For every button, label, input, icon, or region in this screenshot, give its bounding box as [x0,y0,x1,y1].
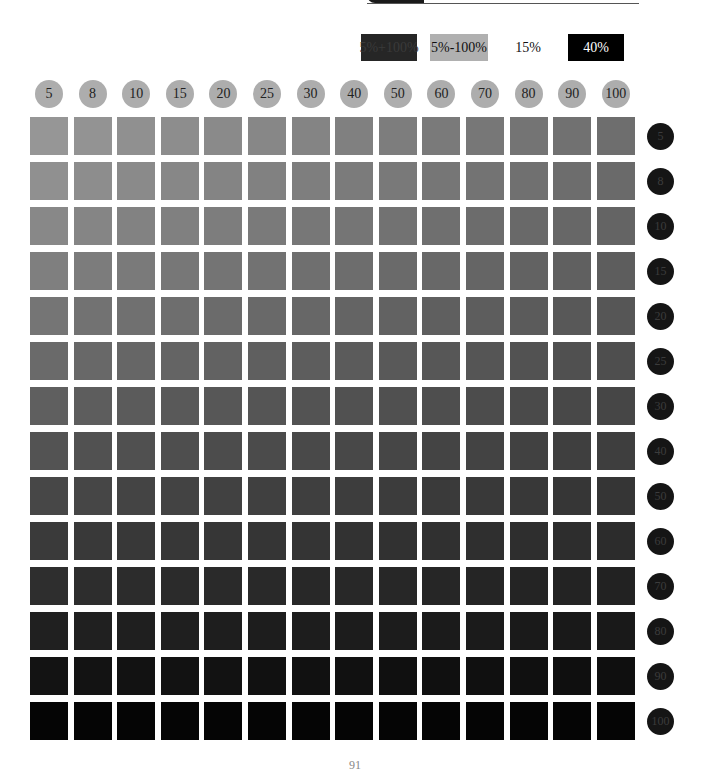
grid-cell [379,207,417,245]
grid-cell [422,612,460,650]
grid-cell [117,297,155,335]
grid-cell [292,387,330,425]
column-header-50: 50 [384,80,412,108]
column-header-100: 100 [602,80,630,108]
grid-cell [292,567,330,605]
grid-cell [204,117,242,155]
grid-cell [292,252,330,290]
grid-cell [30,702,68,740]
grid-cell [553,162,591,200]
grid-cell [204,612,242,650]
grid-cell [597,252,635,290]
grid-cell [204,657,242,695]
grid-cell [335,162,373,200]
grid-cell [30,162,68,200]
grid-cell [510,117,548,155]
column-header-8: 8 [79,80,107,108]
grid-cell [248,297,286,335]
grid-cell [553,477,591,515]
grid-cell [30,657,68,695]
grid-cell [161,432,199,470]
grid-cell [161,657,199,695]
column-header-70: 70 [471,80,499,108]
grid-cell [553,207,591,245]
grid-cell [466,477,504,515]
grid-cell [161,207,199,245]
grid-cell [161,297,199,335]
row-header-8: 8 [647,168,674,195]
grid-cell [553,432,591,470]
column-header-60: 60 [427,80,455,108]
grid-cell [553,252,591,290]
grid-cell [379,297,417,335]
grid-cell [30,477,68,515]
grid-cell [204,477,242,515]
grid-cell [117,162,155,200]
row-header-40: 40 [647,438,674,465]
row-header-60: 60 [647,528,674,555]
grid-cell [248,522,286,560]
grid-cell [161,567,199,605]
grid-cell [161,342,199,380]
grid-cell [597,207,635,245]
grid-cell [597,702,635,740]
grid-cell [74,387,112,425]
grid-cell [466,342,504,380]
grid-cell [30,297,68,335]
grid-cell [510,477,548,515]
grid-cell [422,477,460,515]
grid-cell [510,522,548,560]
grid-cell [510,252,548,290]
grid-cell [161,252,199,290]
grid-cell [553,297,591,335]
grid-cell [379,612,417,650]
row-header-100: 100 [647,708,674,735]
grid-cell [161,162,199,200]
grid-cell [510,432,548,470]
grid-cell [597,117,635,155]
grid-cell [422,342,460,380]
column-header-20: 20 [209,80,237,108]
grid-cell [597,432,635,470]
header-tab [367,0,639,4]
grid-cell [422,657,460,695]
grid-cell [30,432,68,470]
grid-cell [553,657,591,695]
grid-cell [422,252,460,290]
grid-cell [74,252,112,290]
grid-cell [466,567,504,605]
column-header-5: 5 [35,80,63,108]
grid-cell [30,117,68,155]
grid-cell [422,702,460,740]
grid-cell [74,342,112,380]
column-header-15: 15 [166,80,194,108]
grid-cell [74,567,112,605]
grid-cell [161,612,199,650]
grid-cell [379,522,417,560]
grid-cell [379,567,417,605]
grid-cell [30,207,68,245]
legend-black-box: 40% [568,34,624,61]
grid-cell [117,117,155,155]
grid-cell [204,207,242,245]
grid-cell [204,567,242,605]
grid-cell [466,117,504,155]
grid-cell [335,432,373,470]
grid-cell [248,567,286,605]
grid-cell [553,522,591,560]
grid-cell [292,432,330,470]
row-header-90: 90 [647,663,674,690]
grid-cell [204,702,242,740]
grid-cell [161,522,199,560]
grid-cell [422,387,460,425]
grid-cell [597,387,635,425]
grid-cell [117,522,155,560]
column-header-90: 90 [558,80,586,108]
grid-cell [335,522,373,560]
grid-cell [379,387,417,425]
grid-cell [422,162,460,200]
legend-gray-box: 5%-100% [430,34,488,61]
grid-cell [117,477,155,515]
grid-cell [292,522,330,560]
grid-cell [161,477,199,515]
